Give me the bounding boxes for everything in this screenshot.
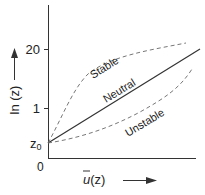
tick-label-z0: z0 xyxy=(30,136,42,152)
tick-label-20: 20 xyxy=(26,42,40,57)
x-axis-label: u(z) xyxy=(83,172,105,187)
x-axis-label-u: u xyxy=(83,172,90,187)
y-axis-label: ln (z) xyxy=(7,86,22,115)
x-axis-arrow-icon xyxy=(146,177,157,184)
x-axis-label-rest: (z) xyxy=(90,172,105,187)
y-axis-arrow-icon xyxy=(11,48,18,58)
tick-label-1: 1 xyxy=(33,101,40,116)
origin-label: 0 xyxy=(37,160,44,174)
y-axis-label-group: ln (z) xyxy=(7,86,22,115)
tick-label-z0-sub: 0 xyxy=(37,142,42,152)
unstable-curve xyxy=(48,69,192,143)
wind-profile-diagram: 20 1 z0 0 ln (z) u(z) Stable Neutral Uns… xyxy=(0,0,205,195)
stable-label: Stable xyxy=(88,54,121,81)
unstable-label: Unstable xyxy=(123,106,166,139)
